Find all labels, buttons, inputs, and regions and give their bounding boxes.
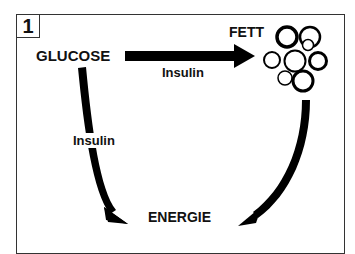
node-fett: FETT xyxy=(229,24,264,40)
edge-label-glucose-fett: Insulin xyxy=(162,65,204,80)
node-glucose: GLUCOSE xyxy=(36,47,110,64)
fat-cell-cluster-icon xyxy=(264,27,327,91)
node-energie: ENERGIE xyxy=(148,209,211,225)
edge-label-glucose-energie: Insulin xyxy=(72,133,116,148)
arrow-fett-to-energie xyxy=(238,100,310,226)
